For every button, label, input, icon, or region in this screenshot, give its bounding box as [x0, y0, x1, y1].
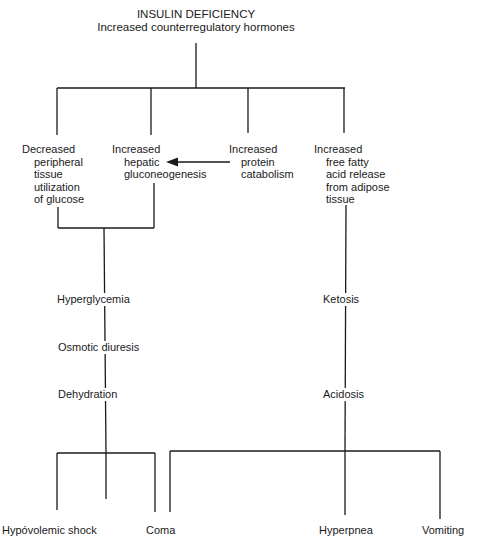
cause-line: tissue [314, 193, 390, 206]
outcome-coma: Coma [145, 524, 176, 537]
cause-line: hepatic [112, 156, 207, 169]
cause-protein-catabolism: Increased protein catabolism [228, 143, 295, 181]
node-dehydration: Dehydration [57, 388, 118, 401]
cause-line: Increased [229, 143, 294, 156]
right-chain-stem [345, 205, 346, 451]
root-title: INSULIN DEFICIENCY [136, 8, 256, 21]
outcome-hypovolemic-shock: Hypóvolemic shock [1, 524, 98, 537]
outcome-vomiting: Vomiting [421, 524, 465, 537]
cause-line: acid release [314, 168, 390, 181]
root-subtitle: Increased counterregulatory hormones [96, 21, 296, 34]
cause-line: of glucose [22, 193, 84, 206]
cause-line: peripheral [22, 156, 84, 169]
cause-line: gluconeogenesis [112, 168, 207, 181]
dka-pathophysiology-diagram: INSULIN DEFICIENCY Increased counterregu… [0, 0, 478, 550]
outcome-hyperpnea: Hyperpnea [318, 524, 374, 537]
cause-line: Decreased [22, 143, 84, 156]
cause-line: catabolism [229, 168, 294, 181]
cause-peripheral-utilization: Decreased peripheral tissue utilization … [21, 143, 85, 206]
cause-free-fatty-acid-release: Increased free fatty acid release from a… [313, 143, 391, 206]
node-hyperglycemia: Hyperglycemia [56, 293, 131, 306]
cause-hepatic-gluconeogenesis: Increased hepatic gluconeogenesis [111, 143, 208, 181]
cause-line: free fatty [314, 156, 390, 169]
cause-line: Increased [314, 143, 390, 156]
node-acidosis: Acidosis [322, 388, 365, 401]
node-osmotic-diuresis: Osmotic diuresis [57, 341, 140, 354]
cause-line: utilization [22, 181, 84, 194]
cause-line: from adipose [314, 181, 390, 194]
cause-line: tissue [22, 168, 84, 181]
connector-lines [0, 0, 478, 550]
node-ketosis: Ketosis [322, 293, 360, 306]
cause-line: Increased [112, 143, 207, 156]
cause-line: protein [229, 156, 294, 169]
